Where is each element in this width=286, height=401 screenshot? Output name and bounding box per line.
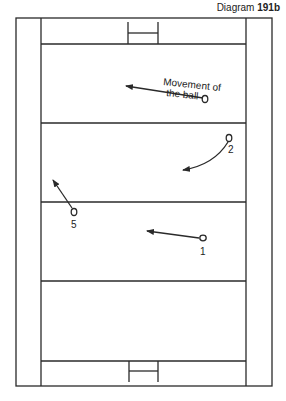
player-1-run-arrow [147, 231, 199, 238]
player-2-run-arrow [183, 142, 228, 170]
player-1-marker [200, 235, 206, 241]
pitch-diagram: Movement of the ball 1 2 5 [0, 0, 286, 401]
ball-start-marker [202, 96, 208, 103]
bottom-goal-posts [129, 361, 158, 382]
top-goal-posts [128, 22, 158, 44]
player-2-marker [226, 135, 232, 142]
player-5-marker [71, 209, 77, 216]
annotation-line-2: the ball [166, 87, 199, 101]
player-5-run-arrow [53, 180, 72, 208]
player-1-label: 1 [200, 246, 206, 257]
player-2-label: 2 [228, 144, 234, 155]
player-5-label: 5 [71, 219, 77, 230]
